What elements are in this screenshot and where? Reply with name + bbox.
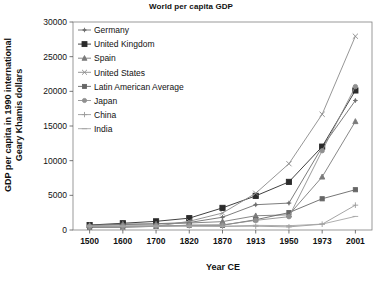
data-point-marker — [254, 218, 258, 222]
data-point-marker — [83, 29, 85, 31]
x-tick-label: 1870 — [213, 236, 232, 246]
data-point-marker — [353, 188, 357, 192]
legend-label: India — [94, 124, 113, 134]
data-point-marker — [255, 204, 257, 206]
x-tick-label: 2001 — [346, 236, 365, 246]
data-point-marker — [353, 119, 358, 124]
plot-area: 0500010000150002000025000300001500160017… — [0, 0, 382, 283]
y-tick-label: 0 — [62, 225, 67, 235]
x-tick-label: 1913 — [246, 236, 265, 246]
x-tick-label: 1700 — [147, 236, 166, 246]
y-tick-label: 15000 — [43, 121, 67, 131]
y-tick-label: 30000 — [43, 17, 67, 27]
data-point-marker — [320, 197, 324, 201]
legend-label: United States — [94, 68, 145, 78]
data-point-marker — [82, 56, 87, 61]
data-point-marker — [288, 202, 290, 204]
axis-layer: 0500010000150002000025000300001500160017… — [43, 17, 372, 246]
y-tick-label: 25000 — [43, 52, 67, 62]
legend-item-japan[interactable]: Japan — [78, 96, 117, 106]
x-tick-label: 1950 — [279, 236, 298, 246]
series-layer — [87, 34, 358, 230]
plot-frame — [73, 22, 372, 230]
data-point-marker — [220, 205, 225, 210]
y-tick-label: 5000 — [48, 190, 67, 200]
legend-label: Japan — [94, 96, 117, 106]
legend-label: United Kingdom — [94, 39, 154, 49]
legend-label: Spain — [94, 53, 116, 63]
series-line — [90, 36, 356, 227]
legend-item-germany[interactable]: Germany — [78, 25, 130, 35]
x-tick-label: 1600 — [113, 236, 132, 246]
legend-item-latin-american-average[interactable]: Latin American Average — [78, 82, 184, 92]
data-point-marker — [354, 99, 356, 101]
data-point-marker — [82, 98, 86, 102]
data-point-marker — [286, 179, 291, 184]
legend-label: Latin American Average — [94, 82, 184, 92]
legend-item-india[interactable]: India — [78, 124, 113, 134]
legend-item-united-states[interactable]: United States — [78, 68, 145, 78]
y-tick-label: 20000 — [43, 86, 67, 96]
x-tick-label: 1820 — [180, 236, 199, 246]
legend-item-china[interactable]: China — [78, 110, 116, 120]
x-tick-label: 1500 — [80, 236, 99, 246]
data-point-marker — [353, 84, 357, 88]
legend-item-united-kingdom[interactable]: United Kingdom — [78, 39, 154, 49]
data-point-marker — [82, 42, 87, 47]
chart-container: World per capita GDP GDP per capita in 1… — [0, 0, 382, 283]
legend-label: Germany — [94, 25, 130, 35]
data-point-marker — [320, 149, 324, 153]
legend-layer: GermanyUnited KingdomSpainUnited StatesL… — [78, 25, 184, 134]
series-spain — [87, 119, 358, 228]
series-united-kingdom — [87, 88, 358, 228]
y-tick-label: 10000 — [43, 156, 67, 166]
data-point-marker — [83, 84, 87, 88]
data-point-marker — [320, 174, 325, 179]
data-point-marker — [287, 214, 291, 218]
legend-item-spain[interactable]: Spain — [78, 53, 116, 63]
legend-label: China — [94, 110, 116, 120]
x-tick-label: 1973 — [313, 236, 332, 246]
